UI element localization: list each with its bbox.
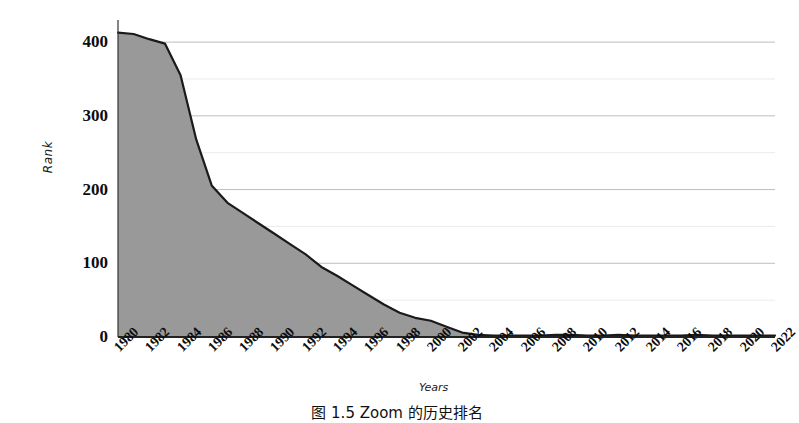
figure-caption: 图 1.5 Zoom 的历史排名	[0, 404, 794, 423]
x-axis-title: Years	[419, 381, 448, 394]
